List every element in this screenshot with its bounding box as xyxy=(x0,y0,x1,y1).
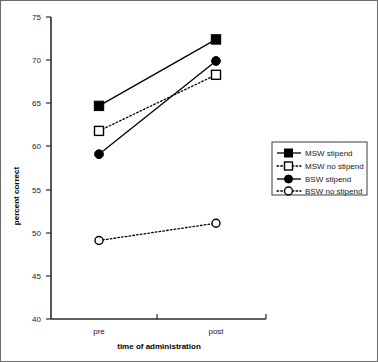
legend-label-msw-stipend: MSW stipend xyxy=(305,149,353,158)
y-tick-label-40: 40 xyxy=(32,315,41,324)
y-tick-label-45: 45 xyxy=(32,272,41,281)
y-tick-label-65: 65 xyxy=(32,99,41,108)
legend-label-bsw-stipend: BSW stipend xyxy=(305,175,351,184)
line-chart: 75 70 65 60 55 50 45 40 percent correct … xyxy=(1,1,378,362)
y-tick-label-55: 55 xyxy=(32,186,41,195)
x-axis-title: time of administration xyxy=(117,342,201,351)
data-point-bsw-stipend-pre xyxy=(95,150,104,159)
y-tick-label-75: 75 xyxy=(32,13,41,22)
series-bsw-no-stipend xyxy=(95,219,220,244)
data-point-msw-stipend-post xyxy=(211,35,220,44)
x-tick-label-post: post xyxy=(208,327,224,336)
y-tick-label-60: 60 xyxy=(32,142,41,151)
y-tick-label-50: 50 xyxy=(32,229,41,238)
data-point-msw-stipend-pre xyxy=(94,101,103,110)
legend-item-msw-no-stipend[interactable]: MSW no stipend xyxy=(277,162,364,171)
y-tick-label-70: 70 xyxy=(32,56,41,65)
data-point-bsw-no-stipend-post xyxy=(212,219,220,227)
series-msw-no-stipend xyxy=(95,70,221,135)
legend-label-msw-no-stipend: MSW no stipend xyxy=(305,162,364,171)
legend-item-bsw-no-stipend[interactable]: BSW no stipend xyxy=(277,187,362,196)
legend-marker-filled-circle-icon xyxy=(285,175,293,183)
chart-figure: 75 70 65 60 55 50 45 40 percent correct … xyxy=(0,0,378,362)
data-point-bsw-stipend-post xyxy=(212,57,221,66)
series-bsw-stipend xyxy=(95,57,221,159)
legend-label-bsw-no-stipend: BSW no stipend xyxy=(305,187,362,196)
y-axis-title: percent correct xyxy=(12,167,21,226)
legend-marker-filled-square-icon xyxy=(285,149,293,157)
legend-item-bsw-stipend[interactable]: BSW stipend xyxy=(277,175,351,184)
legend-item-msw-stipend[interactable]: MSW stipend xyxy=(277,149,353,158)
data-point-bsw-no-stipend-pre xyxy=(95,236,103,244)
data-point-msw-no-stipend-pre xyxy=(95,126,104,135)
chart-legend: MSW stipend MSW no stipend BSW stipend B… xyxy=(272,142,367,196)
legend-marker-open-circle-icon xyxy=(285,187,293,195)
legend-marker-open-square-icon xyxy=(285,162,293,170)
x-tick-label-pre: pre xyxy=(93,327,105,336)
data-point-msw-no-stipend-post xyxy=(212,70,221,79)
